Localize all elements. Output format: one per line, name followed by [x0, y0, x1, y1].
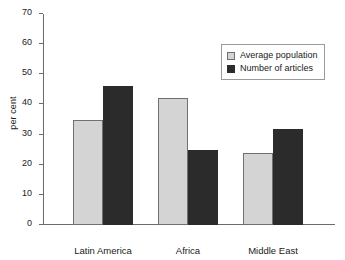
legend-item[interactable]: Average population: [227, 49, 317, 62]
chart-legend: Average populationNumber of articles: [221, 44, 325, 80]
bar[interactable]: [158, 98, 188, 225]
y-axis-title: per cent: [6, 0, 20, 225]
y-axis-tick-label: 50: [22, 67, 32, 78]
x-axis-tick-label: Middle East: [223, 245, 323, 257]
bar-group: [158, 14, 218, 225]
y-axis-tick-label: 40: [22, 97, 32, 108]
y-axis-title-label: per cent: [8, 96, 18, 129]
bar-group: [73, 14, 133, 225]
bar[interactable]: [188, 150, 218, 225]
legend-item[interactable]: Number of articles: [227, 62, 317, 75]
legend-item-label: Average population: [240, 50, 317, 61]
y-axis-tick-label: 10: [22, 188, 32, 199]
legend-swatch-icon: [227, 52, 235, 60]
legend-item-label: Number of articles: [240, 63, 313, 74]
bar[interactable]: [273, 129, 303, 225]
y-axis-tick-label: 0: [27, 218, 32, 229]
y-axis-tick-label: 30: [22, 128, 32, 139]
bar-chart-figure: per cent 706050403020100 Latin AmericaAf…: [0, 0, 345, 260]
y-axis-tick-label: 70: [22, 7, 32, 18]
bar[interactable]: [103, 86, 133, 225]
y-axis-tick-label: 60: [22, 37, 32, 48]
bar[interactable]: [73, 120, 103, 226]
y-axis-tick-label: 20: [22, 158, 32, 169]
legend-swatch-icon: [227, 65, 235, 73]
bar[interactable]: [243, 153, 273, 225]
